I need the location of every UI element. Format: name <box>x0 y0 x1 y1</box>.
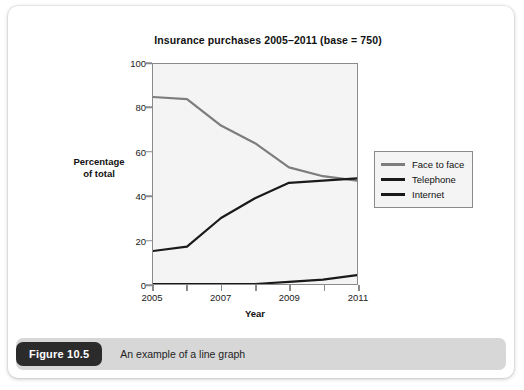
y-tick-label: 0 <box>116 280 146 291</box>
figure-number-badge: Figure 10.5 <box>16 342 102 366</box>
y-tick-label: 40 <box>116 191 146 202</box>
plot-area <box>152 63 358 285</box>
series-line <box>153 275 357 284</box>
legend-color-swatch <box>381 193 405 196</box>
plot-lines <box>153 64 357 284</box>
x-axis-ticks <box>152 285 358 291</box>
x-axis-tick-labels: 2005200720092011 <box>152 292 358 308</box>
x-tick-mark <box>186 285 188 291</box>
x-tick-mark <box>255 285 257 291</box>
y-tick-label: 20 <box>116 235 146 246</box>
x-axis-title: Year <box>152 308 358 319</box>
y-tick-label: 80 <box>116 102 146 113</box>
legend-label: Telephone <box>412 174 456 185</box>
legend-label: Face to face <box>412 159 464 170</box>
chart-title: Insurance purchases 2005–2011 (base = 75… <box>128 34 408 46</box>
x-tick-label: 2009 <box>269 292 309 303</box>
series-line <box>153 178 357 251</box>
x-tick-label: 2011 <box>338 292 378 303</box>
chart-legend: Face to faceTelephoneInternet <box>374 151 473 208</box>
x-tick-mark <box>289 285 291 291</box>
figure-caption-text: An example of a line graph <box>120 348 245 360</box>
x-tick-mark <box>358 285 360 291</box>
legend-item[interactable]: Face to face <box>381 157 464 172</box>
x-tick-label: 2005 <box>132 292 172 303</box>
y-tick-label: 100 <box>116 58 146 69</box>
series-line <box>153 97 357 181</box>
y-tick-label: 60 <box>116 146 146 157</box>
y-axis-tick-labels: 020406080100 <box>114 63 146 285</box>
legend-item[interactable]: Telephone <box>381 172 464 187</box>
x-tick-mark <box>221 285 223 291</box>
legend-item[interactable]: Internet <box>381 187 464 202</box>
x-tick-label: 2007 <box>201 292 241 303</box>
line-chart: Insurance purchases 2005–2011 (base = 75… <box>8 6 514 331</box>
figure-caption-bar: Figure 10.5 An example of a line graph <box>16 338 506 370</box>
x-tick-mark <box>152 285 154 291</box>
legend-label: Internet <box>412 189 444 200</box>
legend-color-swatch <box>381 163 405 166</box>
x-tick-mark <box>324 285 326 291</box>
legend-color-swatch <box>381 178 405 181</box>
figure-card: Insurance purchases 2005–2011 (base = 75… <box>8 6 514 378</box>
